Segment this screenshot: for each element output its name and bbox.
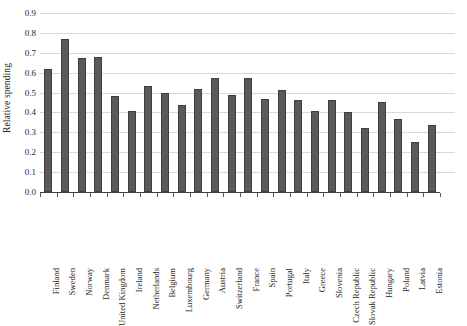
y-axis-title: Relative spending [0, 0, 14, 195]
y-axis-tick-labels: 0.90.80.70.60.50.40.30.20.10.0 [14, 0, 38, 195]
bar-poland [394, 119, 402, 192]
bar-united-kingdom [111, 96, 119, 192]
x-axis-label-finland: Finland [52, 268, 61, 294]
x-axis-label-italy: Italy [302, 268, 311, 284]
y-axis-title-text: Relative spending [2, 62, 12, 132]
bar-slovak-republic [361, 128, 369, 192]
bar-slovenia [328, 100, 336, 192]
x-axis-label-estonia: Estonia [435, 268, 444, 294]
x-axis-label-belgium: Belgium [168, 268, 177, 298]
x-axis-label-greece: Greece [318, 268, 327, 292]
bar-hungary [378, 102, 386, 192]
x-axis-label-ireland: Ireland [135, 268, 144, 292]
bar-czech-republic [344, 112, 352, 192]
bar-netherlands [144, 86, 152, 192]
y-axis-tick-label: 0.3 [25, 128, 36, 137]
bar-portugal [278, 90, 286, 192]
x-axis-label-czech-republic: Czech Republic [352, 268, 361, 323]
x-axis-label-slovenia: Slovenia [335, 268, 344, 298]
x-axis-label-austria: Austria [218, 268, 227, 293]
bar-ireland [128, 111, 136, 192]
y-axis-tick-label: 0.0 [25, 188, 36, 197]
y-axis-tick-label: 0.9 [25, 9, 36, 18]
x-axis-category-labels: FinlandSwedenNorwayDenmarkUnited Kingdom… [40, 196, 455, 270]
x-axis-label-switzerland: Switzerland [235, 268, 244, 309]
y-axis-tick-label: 0.7 [25, 48, 36, 57]
bar-germany [194, 89, 202, 192]
y-axis-tick-label: 0.1 [25, 168, 36, 177]
bar-denmark [94, 57, 102, 192]
y-axis-tick-label: 0.8 [25, 28, 36, 37]
x-axis-label-portugal: Portugal [285, 268, 294, 297]
bar-spain [261, 99, 269, 192]
bar-finland [44, 69, 52, 192]
x-axis-label-luxembourg: Luxembourg [185, 268, 194, 312]
y-axis-tick-label: 0.4 [25, 108, 36, 117]
bar-belgium [161, 93, 169, 192]
x-axis-label-norway: Norway [85, 268, 94, 296]
y-axis-tick-label: 0.5 [25, 88, 36, 97]
x-axis-label-latvia: Latvia [418, 268, 427, 290]
bar-italy [294, 100, 302, 192]
bar-latvia [411, 142, 419, 192]
bar-sweden [61, 39, 69, 192]
bar-switzerland [228, 95, 236, 192]
x-axis-label-poland: Poland [402, 268, 411, 292]
bar-france [244, 78, 252, 192]
x-axis-label-sweden: Sweden [68, 268, 77, 295]
bar-norway [78, 58, 86, 192]
bar-luxembourg [178, 105, 186, 192]
x-axis-label-spain: Spain [268, 268, 277, 288]
x-axis-label-germany: Germany [202, 268, 211, 300]
y-axis-tick-label: 0.6 [25, 68, 36, 77]
x-axis-label-united-kingdom: United Kingdom [118, 268, 127, 326]
bar-greece [311, 111, 319, 192]
x-axis-label-netherlands: Netherlands [152, 268, 161, 310]
y-axis-tick-label: 0.2 [25, 148, 36, 157]
bars-layer [40, 13, 455, 192]
x-axis-label-slovak-republic: Slovak Republic [368, 268, 377, 325]
x-axis-label-france: France [252, 268, 261, 291]
bar-austria [211, 78, 219, 192]
x-axis-label-denmark: Denmark [102, 268, 111, 300]
bar-estonia [428, 125, 436, 192]
x-axis-label-hungary: Hungary [385, 268, 394, 298]
